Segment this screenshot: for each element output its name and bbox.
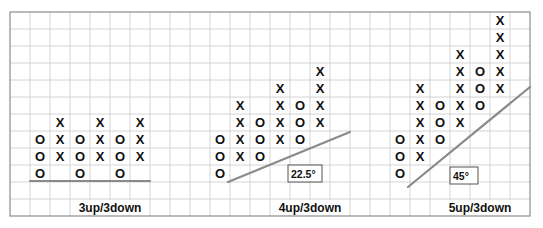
- x-box-symbol: X: [136, 115, 145, 130]
- x-box-symbol: X: [236, 115, 245, 130]
- o-box-symbol: O: [435, 132, 445, 147]
- x-box-symbol: X: [56, 132, 65, 147]
- x-box-symbol: X: [416, 149, 425, 164]
- x-box-symbol: X: [456, 47, 465, 62]
- o-box-symbol: O: [215, 132, 225, 147]
- panel-label: 5up/3down: [449, 201, 512, 215]
- x-box-symbol: X: [236, 98, 245, 113]
- o-box-symbol: O: [75, 166, 85, 181]
- x-box-symbol: X: [56, 149, 65, 164]
- o-box-symbol: O: [435, 98, 445, 113]
- x-box-symbol: X: [276, 132, 285, 147]
- x-box-symbol: X: [136, 132, 145, 147]
- o-box-symbol: O: [475, 98, 485, 113]
- x-box-symbol: X: [316, 115, 325, 130]
- o-box-symbol: O: [35, 132, 45, 147]
- x-box-symbol: X: [276, 98, 285, 113]
- x-box-symbol: X: [496, 30, 505, 45]
- o-box-symbol: O: [35, 166, 45, 181]
- o-box-symbol: O: [295, 132, 305, 147]
- x-box-symbol: X: [96, 149, 105, 164]
- o-box-symbol: O: [255, 149, 265, 164]
- x-box-symbol: X: [136, 149, 145, 164]
- x-box-symbol: X: [496, 81, 505, 96]
- x-box-symbol: X: [316, 81, 325, 96]
- o-box-symbol: O: [255, 132, 265, 147]
- x-box-symbol: X: [416, 81, 425, 96]
- x-box-symbol: X: [316, 98, 325, 113]
- o-box-symbol: O: [75, 149, 85, 164]
- x-box-symbol: X: [456, 115, 465, 130]
- x-box-symbol: X: [236, 149, 245, 164]
- o-box-symbol: O: [475, 81, 485, 96]
- o-box-symbol: O: [475, 64, 485, 79]
- x-box-symbol: X: [96, 115, 105, 130]
- o-box-symbol: O: [215, 149, 225, 164]
- angle-label: 22.5°: [291, 168, 316, 180]
- panel-label: 4up/3down: [279, 201, 342, 215]
- o-box-symbol: O: [115, 166, 125, 181]
- x-box-symbol: X: [456, 64, 465, 79]
- x-box-symbol: X: [276, 81, 285, 96]
- o-box-symbol: O: [395, 166, 405, 181]
- angle-labels: 22.5°45°: [288, 165, 478, 184]
- x-box-symbol: X: [416, 98, 425, 113]
- x-box-symbol: X: [496, 47, 505, 62]
- x-box-symbol: X: [96, 132, 105, 147]
- o-box-symbol: O: [215, 166, 225, 181]
- panel-label: 3up/3down: [79, 201, 142, 215]
- x-box-symbol: X: [416, 132, 425, 147]
- o-box-symbol: O: [395, 132, 405, 147]
- o-box-symbol: O: [35, 149, 45, 164]
- point-and-figure-diagram: OOOXXXOOOXXXOOOXXXOOOXXXXOOOXXXXOOOXXXXO…: [0, 0, 543, 228]
- o-box-symbol: O: [115, 132, 125, 147]
- o-box-symbol: O: [295, 115, 305, 130]
- o-box-symbol: O: [435, 115, 445, 130]
- x-box-symbol: X: [236, 132, 245, 147]
- o-box-symbol: O: [255, 115, 265, 130]
- grid: [10, 12, 530, 216]
- o-box-symbol: O: [295, 98, 305, 113]
- o-box-symbol: O: [75, 132, 85, 147]
- x-box-symbol: X: [276, 115, 285, 130]
- x-box-symbol: X: [416, 115, 425, 130]
- x-box-symbol: X: [56, 115, 65, 130]
- o-box-symbol: O: [395, 149, 405, 164]
- x-box-symbol: X: [496, 13, 505, 28]
- o-box-symbol: O: [115, 149, 125, 164]
- panel-labels: 3up/3down4up/3down5up/3down: [73, 200, 518, 215]
- x-box-symbol: X: [496, 64, 505, 79]
- x-box-symbol: X: [456, 98, 465, 113]
- x-box-symbol: X: [316, 64, 325, 79]
- angle-label: 45°: [453, 170, 469, 182]
- x-box-symbol: X: [456, 81, 465, 96]
